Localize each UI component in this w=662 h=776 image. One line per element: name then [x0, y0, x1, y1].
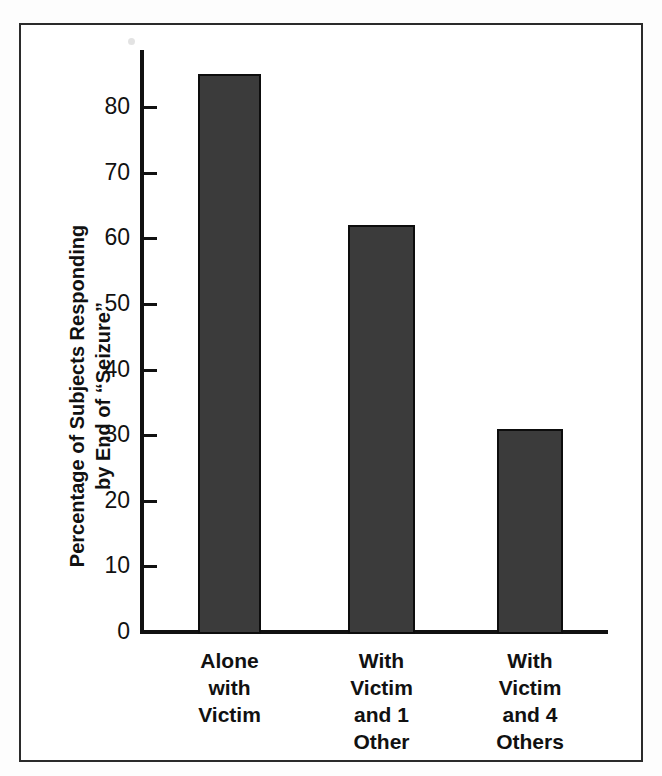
bar	[497, 429, 563, 634]
y-axis-line	[140, 50, 144, 634]
y-tick-mark	[144, 369, 157, 372]
y-tick-mark	[144, 237, 157, 240]
plot-area: 01020304050607080 Alone with VictimWith …	[0, 0, 662, 776]
x-axis-category-label: Alone with Victim	[150, 648, 310, 729]
y-tick-label: 80	[86, 95, 130, 118]
bar	[348, 225, 415, 634]
y-tick-mark	[144, 565, 157, 568]
bar	[198, 74, 261, 634]
y-axis-title: Percentage of Subjects Responding by End…	[64, 166, 116, 626]
y-tick-mark	[144, 500, 157, 503]
y-tick-mark	[144, 106, 157, 109]
y-tick-mark	[144, 172, 157, 175]
scan-artifact-speck	[128, 38, 135, 45]
x-axis-category-label: With Victim and 4 Others	[450, 648, 610, 756]
y-tick-mark	[144, 434, 157, 437]
x-axis-category-label: With Victim and 1 Other	[302, 648, 462, 756]
figure-canvas: 01020304050607080 Alone with VictimWith …	[0, 0, 662, 776]
y-tick-mark	[144, 631, 157, 634]
y-tick-mark	[144, 303, 157, 306]
